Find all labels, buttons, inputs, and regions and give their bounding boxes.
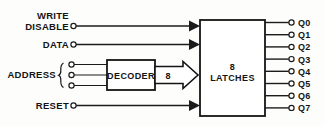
output-label-q4: Q4 — [298, 67, 310, 77]
address-brace-icon — [59, 63, 64, 88]
bus-width-label: 8 — [165, 71, 170, 81]
output-label-q0: Q0 — [298, 18, 310, 28]
arrowhead-write-disable-icon — [189, 21, 200, 32]
bus-arrow-icon — [155, 62, 198, 89]
terminal-address-1[interactable] — [69, 72, 74, 77]
output-label-q7: Q7 — [298, 103, 310, 113]
input-label-reset: RESET — [36, 100, 69, 111]
terminal-output-q5[interactable] — [289, 81, 294, 86]
arrowhead-reset-icon — [189, 100, 200, 111]
output-label-q3: Q3 — [298, 55, 310, 65]
input-label-write: WRITE — [37, 10, 69, 21]
terminal-output-q3[interactable] — [289, 57, 294, 62]
terminal-output-q7[interactable] — [289, 105, 294, 110]
output-label-q2: Q2 — [298, 42, 310, 52]
decoder-label: DECODER — [107, 71, 155, 81]
terminal-output-q6[interactable] — [289, 93, 294, 98]
output-label-q6: Q6 — [298, 91, 310, 101]
terminal-data[interactable] — [71, 42, 76, 47]
input-label-address: ADDRESS — [7, 69, 56, 80]
terminal-reset[interactable] — [71, 103, 76, 108]
output-label-q5: Q5 — [298, 79, 310, 89]
terminal-output-q1[interactable] — [289, 32, 294, 37]
latches-label-name: LATCHES — [210, 73, 255, 83]
terminal-output-q0[interactable] — [289, 20, 294, 25]
input-label-disable: DISABLE — [25, 21, 69, 32]
terminal-address-0[interactable] — [69, 62, 74, 67]
block-diagram: WRITE DISABLE DATA RESET ADDRESS DECODER… — [0, 0, 325, 126]
terminal-output-q2[interactable] — [289, 44, 294, 49]
terminal-address-2[interactable] — [69, 83, 74, 88]
latches-label-count: 8 — [230, 62, 235, 72]
output-label-q1: Q1 — [298, 30, 310, 40]
arrowhead-data-icon — [189, 39, 200, 50]
terminal-write-disable[interactable] — [71, 23, 76, 28]
input-label-data: DATA — [43, 39, 69, 50]
terminal-output-q4[interactable] — [289, 69, 294, 74]
